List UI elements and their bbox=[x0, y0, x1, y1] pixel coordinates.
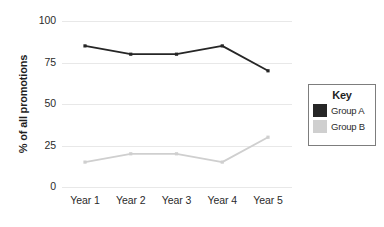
series-line bbox=[85, 137, 268, 162]
legend-entry: Group A bbox=[313, 104, 375, 117]
data-point-marker bbox=[83, 44, 86, 47]
legend-entry-label: Group B bbox=[331, 121, 365, 132]
y-axis-tick-label: 25 bbox=[22, 139, 56, 151]
legend-swatch-icon bbox=[313, 104, 327, 117]
data-point-marker bbox=[129, 152, 132, 155]
x-axis-tick-label: Year 5 bbox=[238, 194, 298, 206]
legend-title: Key bbox=[309, 89, 375, 101]
y-axis-tick-label: 0 bbox=[22, 180, 56, 192]
legend-box: Key Group AGroup B bbox=[308, 84, 376, 146]
y-axis-tick-label: 100 bbox=[22, 14, 56, 26]
y-axis-tick-label: 50 bbox=[22, 97, 56, 109]
x-axis-tick-labels: Year 1Year 2Year 3Year 4Year 5 bbox=[62, 194, 292, 214]
line-chart: % of all promotions 0255075100 Year 1Yea… bbox=[0, 0, 384, 227]
legend-entry: Group B bbox=[313, 120, 375, 133]
data-point-marker bbox=[221, 44, 224, 47]
y-axis-tick-label: 75 bbox=[22, 56, 56, 68]
data-point-marker bbox=[266, 136, 269, 139]
data-point-marker bbox=[129, 53, 132, 56]
legend-entry-label: Group A bbox=[331, 105, 364, 116]
legend-swatch-icon bbox=[313, 120, 327, 133]
plot-area bbox=[62, 21, 292, 187]
gridline bbox=[62, 187, 292, 188]
series-line bbox=[85, 46, 268, 71]
data-point-marker bbox=[83, 161, 86, 164]
data-point-marker bbox=[266, 69, 269, 72]
data-point-marker bbox=[175, 53, 178, 56]
data-point-marker bbox=[175, 152, 178, 155]
data-point-marker bbox=[221, 161, 224, 164]
legend-entries: Group AGroup B bbox=[309, 104, 375, 133]
series-lines bbox=[62, 21, 292, 187]
y-axis-tick-labels: 0255075100 bbox=[22, 0, 56, 227]
